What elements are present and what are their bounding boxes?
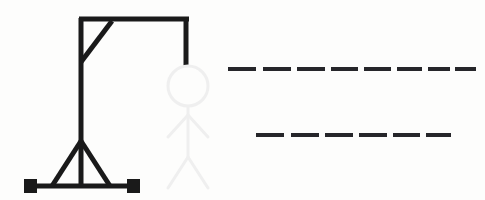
letter-blank[interactable]	[228, 67, 256, 71]
letter-blank[interactable]	[428, 67, 450, 71]
canvas-background	[0, 0, 485, 200]
letter-blank[interactable]	[325, 133, 353, 137]
gallows-foot-right	[127, 179, 140, 193]
letter-blank[interactable]	[331, 67, 358, 71]
letter-blank[interactable]	[291, 133, 319, 137]
letter-blank[interactable]	[397, 67, 422, 71]
letter-blank[interactable]	[455, 67, 476, 71]
letter-blank[interactable]	[426, 133, 451, 137]
letter-blank[interactable]	[256, 133, 284, 137]
letter-blank[interactable]	[364, 67, 391, 71]
letter-blank[interactable]	[359, 133, 387, 137]
word-blank-row-1	[228, 67, 476, 71]
hangman-drawing-canvas	[0, 0, 485, 200]
gallows-foot-left	[24, 179, 37, 193]
letter-blank[interactable]	[297, 67, 325, 71]
hangman-scene	[0, 0, 485, 200]
letter-blank[interactable]	[393, 133, 420, 137]
letter-blank[interactable]	[263, 67, 291, 71]
